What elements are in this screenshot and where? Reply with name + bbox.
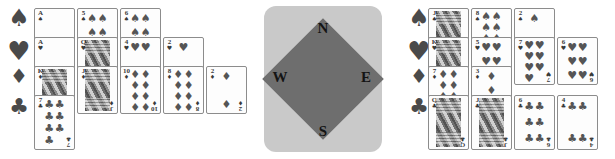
heart-suit-icon: ♥ <box>4 38 34 64</box>
card-pip: ♣ <box>567 101 577 112</box>
card-corner-index: 6♥ <box>587 71 596 83</box>
court-card-figure <box>436 98 461 147</box>
card-pip: ♠ <box>98 27 108 38</box>
court-card-figure <box>85 69 110 111</box>
card-pip: ♣ <box>55 123 65 134</box>
card-pip: ♣ <box>524 101 534 112</box>
playing-card[interactable]: 6♥6♥♥♥♥♥♥♥ <box>557 37 598 85</box>
left-suit-rail: ♠ ♥ ♦ ♣ <box>4 0 34 159</box>
card-pip-grid: ♦♦♦♦♦♦♦♦♦♦ <box>130 69 151 111</box>
card-pip: ♣ <box>44 123 54 134</box>
card-pip-grid: ♥♥♥♥♥♥ <box>567 40 588 82</box>
card-pip: ♣ <box>55 111 65 122</box>
card-pip: ♣ <box>44 111 54 122</box>
playing-card[interactable]: 8♦8♦♦♦♦♦♦♦♦♦ <box>163 66 204 114</box>
card-pip: ♠ <box>130 27 140 38</box>
card-pip: ♥ <box>524 73 534 84</box>
compass-north-label: N <box>264 20 382 37</box>
card-pip: ♦ <box>141 113 151 114</box>
card-pip: ♠ <box>130 13 140 24</box>
playing-card[interactable]: Q♣Q♣ <box>428 95 469 150</box>
playing-card[interactable]: 7♥7♥♥♥♥♥♥♥♥ <box>514 37 555 85</box>
card-pip: ♠ <box>87 13 97 24</box>
card-pip: ♦ <box>222 99 232 110</box>
card-pip: ♠ <box>141 27 151 38</box>
card-pip-grid: ♦♦ <box>216 69 237 111</box>
card-pip: ♦ <box>222 71 232 82</box>
card-pip: ♣ <box>567 133 577 144</box>
card-pip-grid: ♣♣♣♣♣♣♣ <box>44 98 65 147</box>
card-corner-index: 8♦ <box>193 100 202 112</box>
card-pip: ♦ <box>130 113 140 114</box>
compass-rose: N W E S <box>264 6 382 152</box>
playing-card[interactable]: 10♦10♦♦♦♦♦♦♦♦♦♦♦ <box>120 66 161 114</box>
card-pip: ♦ <box>487 85 497 96</box>
card-pip: ♣ <box>578 133 588 144</box>
spade-suit-icon: ♠ <box>4 6 34 30</box>
card-pip: ♥ <box>578 70 588 81</box>
card-pip: ♣ <box>524 133 534 144</box>
playing-card[interactable]: 6♣6♣♣♣♣♣♣♣ <box>514 95 555 150</box>
club-suit-icon: ♣ <box>4 96 34 118</box>
compass-south-label: S <box>264 123 382 140</box>
court-card-figure <box>479 98 504 147</box>
card-pip: ♣ <box>44 99 54 110</box>
card-pip: ♣ <box>578 101 588 112</box>
card-pip-grid: ♣♣♣♣ <box>567 98 588 147</box>
card-pip: ♣ <box>535 101 545 112</box>
card-corner-index: 2♦ <box>236 100 245 112</box>
bridge-board: ♠ ♥ ♦ ♣ A♠A♠♠5♠5♠♠♠♠♠♠6♠6♠♠♠♠♠♠♠A♥A♥♥Q♥Q… <box>0 0 615 159</box>
card-pip: ♥ <box>578 42 588 53</box>
compass-east-label: E <box>358 69 374 86</box>
card-pip: ♥ <box>179 42 189 53</box>
playing-card[interactable]: J♦J♦ <box>77 66 118 114</box>
card-pip: ♥ <box>492 56 502 67</box>
compass-west-label: W <box>272 69 288 86</box>
playing-card[interactable]: 2♦2♦♦♦ <box>206 66 247 114</box>
card-corner-index: 10♦ <box>150 100 159 112</box>
card-corner-index: 4♣ <box>587 136 596 148</box>
card-corner-index: 7♥ <box>544 71 553 83</box>
card-pip: ♥ <box>141 42 151 53</box>
playing-card[interactable]: J♣J♣ <box>471 95 512 150</box>
card-pip-grid: ♣♣♣♣♣♣ <box>524 98 545 147</box>
card-pip: ♥ <box>492 42 502 53</box>
card-pip-grid: ♦♦♦♦♦♦♦♦ <box>173 69 194 111</box>
card-pip: ♥ <box>567 56 577 67</box>
card-pip: ♣ <box>44 135 54 146</box>
card-pip: ♥ <box>578 56 588 67</box>
card-pip: ♦ <box>173 102 183 113</box>
card-pip: ♠ <box>141 13 151 24</box>
card-pip: ♠ <box>530 13 540 24</box>
card-pip: ♥ <box>535 62 545 73</box>
card-pip: ♣ <box>524 117 534 128</box>
card-pip-grid: ♥♥♥♥♥♥♥ <box>524 40 545 82</box>
card-pip: ♠ <box>87 27 97 38</box>
card-pip: ♣ <box>535 133 545 144</box>
card-corner-index: 7♣ <box>64 136 73 148</box>
card-pip: ♥ <box>567 70 577 81</box>
card-pip: ♥ <box>481 42 491 53</box>
card-pip: ♥ <box>481 56 491 67</box>
card-pip: ♥ <box>567 42 577 53</box>
card-pip: ♥ <box>130 42 140 53</box>
card-pip: ♠ <box>98 13 108 24</box>
card-pip: ♦ <box>184 102 194 113</box>
playing-card[interactable]: 4♣4♣♣♣♣♣ <box>557 95 598 150</box>
card-pip: ♣ <box>535 117 545 128</box>
card-corner-index: 6♣ <box>544 136 553 148</box>
diamond-suit-icon: ♦ <box>4 66 34 86</box>
card-pip: ♦ <box>487 71 497 82</box>
playing-card[interactable]: 7♣7♣♣♣♣♣♣♣♣ <box>34 95 75 150</box>
card-pip: ♣ <box>55 99 65 110</box>
